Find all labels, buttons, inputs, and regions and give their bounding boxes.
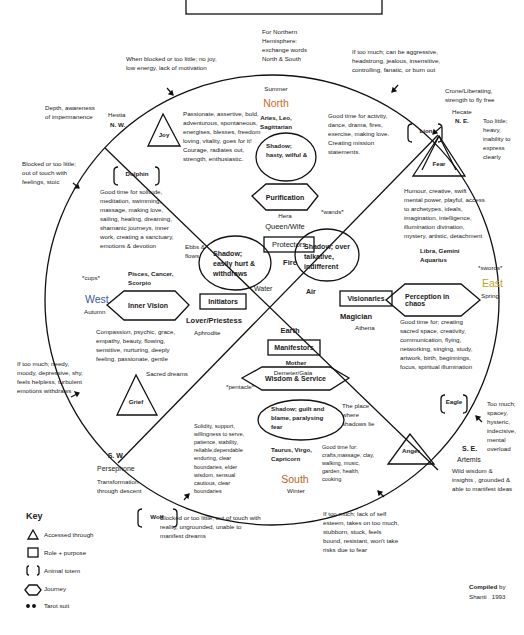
east-good-time: Good time for; creating sacred space, cr… <box>400 318 478 372</box>
east-suit: *swords* <box>478 264 518 273</box>
nw-label: N. W. <box>110 121 140 130</box>
east-signs: Libra, Gemini Aquarius <box>420 247 466 265</box>
south-good-time: Good time for: crafts,massage, clay, wal… <box>322 443 378 484</box>
nw-totem: Dolphin <box>119 170 155 179</box>
north-season: Summer <box>246 85 306 94</box>
east-archetype: Magician <box>340 312 390 323</box>
key-asterisk-icon <box>27 605 30 608</box>
south-too-much: If too much; lack of self esteem, takes … <box>323 510 401 555</box>
west-suit: *cups* <box>82 274 112 283</box>
north-archetype: Queen/Wife <box>252 222 318 233</box>
north-good-time: Good time for activity, dance, drama, fi… <box>328 112 396 157</box>
medicine-wheel-diagram: For Northern Hemisphere: exchange words … <box>0 0 524 635</box>
ne-totem: Lion <box>414 127 438 136</box>
south-journey: Wisdom & Service <box>242 367 349 390</box>
west-too-little: Blocked or too little; out of touch with… <box>22 160 84 187</box>
west-ebbs: Ebbs & flows <box>185 243 211 261</box>
credit-year: 1993 <box>492 593 506 600</box>
east-qualities: Humour, creative, swift mental power, pl… <box>404 187 486 241</box>
south-qualities: Solidity, support, willingness to serve,… <box>194 422 252 495</box>
ne-emotion: Fear <box>427 160 451 169</box>
west-goddess: Aphrodite <box>194 329 244 338</box>
west-archetype: Lover/Priestess <box>186 316 256 327</box>
ne-too-little: Too little; heavy, inability to express … <box>483 117 521 162</box>
grief-triangle <box>117 375 157 415</box>
nw-goddess: Hestia <box>108 111 138 120</box>
south-role: Manifestors <box>268 340 320 355</box>
credit-author-line: Shanti 1993 <box>469 593 521 602</box>
hemisphere-note: For Northern Hemisphere: exchange words … <box>262 28 322 64</box>
west-sacred: Sacred dreams <box>146 370 196 379</box>
south-shadows-place: The place where shadows lie <box>342 402 382 429</box>
east-season: Spring <box>481 292 511 301</box>
south-season: Winter <box>276 487 316 496</box>
se-goddess: Artemis <box>457 455 493 465</box>
credit-line: Compiled by <box>469 583 521 592</box>
key-item-triangle: Accessed through <box>44 531 124 540</box>
credit-suffix: by <box>499 583 506 590</box>
nw-too-little: When blocked or too little; no joy, low … <box>126 55 218 73</box>
sw-goddess: Persephone <box>97 464 147 474</box>
east-label: East <box>482 276 522 291</box>
south-signs: Taurus, Virgo, Capricorn <box>271 446 317 464</box>
ne-theme: Crone/Liberating, strength to fly free <box>445 87 515 105</box>
sw-emotion: Grief <box>122 398 150 407</box>
sw-theme: Transformation through descent <box>97 478 151 496</box>
south-too-little: Blocked or too little; out of touch with… <box>160 514 262 541</box>
west-too-much: If too much; needy, moody, depressive, s… <box>17 360 83 396</box>
se-totem: Eagle <box>442 398 466 407</box>
key-title: Key <box>26 510 66 523</box>
north-label: North <box>246 96 306 111</box>
nw-theme: Depth, awareness of impermanence <box>45 104 97 122</box>
north-journey: Purification <box>252 184 318 210</box>
key-bracket-icon <box>27 566 39 575</box>
south-label: South <box>272 472 318 487</box>
key-item-asterisks: Tarot suit <box>44 602 124 611</box>
east-element: Air <box>306 287 326 297</box>
title-box <box>186 0 382 14</box>
ne-label: N. E. <box>455 117 481 126</box>
key-item-square: Role + purpose <box>44 549 124 558</box>
nw-emotion: Joy <box>150 131 178 140</box>
joy-triangle <box>148 114 180 146</box>
north-shadow: Shadow; hasty, wilful & <box>266 142 308 160</box>
west-qualities: Compassion, psychic, grace, empathy, bea… <box>96 328 186 364</box>
west-journey: Inner Vision <box>107 291 189 320</box>
north-suit: *wands* <box>321 208 361 217</box>
credit-author: Shanti <box>469 593 487 600</box>
key-hexagon-icon <box>25 585 41 595</box>
east-journey: Perception in chaos <box>405 284 461 316</box>
south-element: Earth <box>270 326 310 337</box>
west-role: Initiators <box>200 294 246 309</box>
east-shadow: Shadow; over talkative, indifferent <box>304 242 356 272</box>
north-goddess: Hera <box>260 212 310 221</box>
ne-goddess: Hecate <box>452 108 482 117</box>
north-too-much: If too much; can be aggressive, headstro… <box>352 48 452 75</box>
se-emotion: Anger <box>398 447 424 456</box>
north-qualities: Passionate, assertive, bold, adventurous… <box>183 110 265 164</box>
se-label: S. E. <box>462 444 488 454</box>
sw-label: S. W. <box>96 451 136 461</box>
key-triangle-icon <box>28 530 38 539</box>
west-shadow: Shadow; easily hurt & withdraws <box>213 249 259 279</box>
se-theme: Wild wisdom & insights , grounded & able… <box>452 467 514 494</box>
key-item-hexagon: Journey <box>44 585 124 594</box>
south-shadow: Shadow; guilt and blame, paralysing fear <box>271 405 333 432</box>
se-too-much: Too much; spacey, hysteric, indecisive, … <box>487 400 523 454</box>
key-square-icon <box>28 548 38 557</box>
west-good-time: Good time for solitude, meditation, swim… <box>100 188 184 251</box>
sw-totem: Wolf <box>142 513 172 522</box>
east-goddess: Athena <box>355 324 395 333</box>
west-element: Water <box>254 284 284 294</box>
key-item-brackets: Animal totem <box>44 567 124 576</box>
west-signs: Pisces, Cancer, Scorpio <box>128 270 178 288</box>
credit-prefix: Compiled <box>469 583 497 590</box>
east-role: Visionaries <box>340 291 392 306</box>
